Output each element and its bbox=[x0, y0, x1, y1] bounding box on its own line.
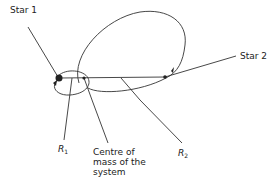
orbit-arrow-1 bbox=[53, 80, 57, 86]
centre-of-mass-label: Centre of mass of the system bbox=[93, 147, 146, 177]
star1-label: Star 1 bbox=[10, 5, 37, 15]
r1-subscript: 1 bbox=[64, 148, 68, 155]
r2-pointer bbox=[121, 78, 182, 143]
r1-label: R1 bbox=[58, 144, 68, 157]
star1-pointer bbox=[28, 27, 58, 77]
com-dot bbox=[82, 76, 85, 79]
r1-pointer bbox=[64, 78, 72, 140]
separation-line bbox=[59, 77, 166, 78]
r2-subscript: 2 bbox=[184, 152, 188, 159]
binary-star-diagram: Star 1 Star 2 R1 R2 Centre of mass of th… bbox=[0, 0, 277, 184]
com-line-3: system bbox=[93, 167, 146, 177]
star2-label: Star 2 bbox=[240, 51, 267, 61]
com-line-2: mass of the bbox=[93, 157, 146, 167]
star2-pointer bbox=[165, 56, 236, 77]
orbit-arrow-2 bbox=[171, 67, 174, 73]
com-line-1: Centre of bbox=[93, 147, 146, 157]
star2-orbit bbox=[78, 11, 186, 91]
com-pointer bbox=[84, 78, 108, 143]
star2-dot bbox=[163, 75, 167, 79]
r2-label: R2 bbox=[178, 148, 188, 161]
